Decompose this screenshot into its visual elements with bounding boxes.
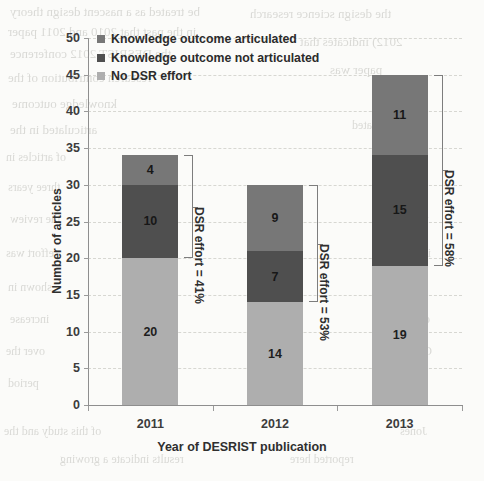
- y-tick-label: 40: [40, 104, 80, 118]
- chart-legend: Knowledge outcome articulatedKnowledge o…: [97, 30, 319, 86]
- bar-segment[interactable]: 10: [122, 185, 178, 258]
- legend-item[interactable]: Knowledge outcome not articulated: [97, 49, 319, 68]
- legend-item[interactable]: No DSR effort: [97, 67, 319, 86]
- bar-segment[interactable]: 14: [247, 302, 303, 405]
- y-axis-line: [88, 38, 89, 406]
- bar-value-label: 9: [272, 211, 279, 225]
- x-tick-mark: [213, 406, 214, 411]
- dsr-effort-annotation: DSR effort = 41%: [184, 155, 254, 258]
- dsr-effort-label: DSR effort = 41%: [192, 207, 206, 304]
- bar-segment[interactable]: 19: [372, 266, 428, 405]
- y-tick-label: 30: [40, 178, 80, 192]
- y-tick-label: 25: [40, 215, 80, 229]
- y-tick-label: 0: [40, 398, 80, 412]
- y-tick-mark: [84, 148, 89, 149]
- bar-segment[interactable]: 4: [122, 155, 178, 184]
- bar-value-label: 14: [268, 347, 282, 361]
- bar-value-label: 10: [143, 214, 157, 228]
- dsr-effort-annotation: DSR effort = 53%: [309, 185, 379, 302]
- y-tick-label: 10: [40, 325, 80, 339]
- legend-label: Knowledge outcome articulated: [111, 32, 297, 46]
- y-tick-mark: [84, 38, 89, 39]
- y-tick-mark: [84, 295, 89, 296]
- dsr-effort-annotation: DSR effort = 58%: [434, 75, 484, 266]
- bar-value-label: 15: [393, 203, 407, 217]
- x-axis-line: [88, 405, 463, 406]
- y-axis-title: Number of articles: [50, 188, 64, 293]
- y-tick-mark: [84, 185, 89, 186]
- y-tick-mark: [84, 75, 89, 76]
- y-tick-label: 35: [40, 141, 80, 155]
- y-tick-label: 15: [40, 288, 80, 302]
- bar-segment[interactable]: 20: [122, 258, 178, 405]
- x-tick-mark: [337, 406, 338, 411]
- plot-area: 201041479191511 DSR effort = 41%DSR effo…: [88, 38, 462, 405]
- dsr-effort-label: DSR effort = 58%: [442, 170, 456, 267]
- x-tick-mark: [462, 406, 463, 411]
- y-tick-mark: [84, 368, 89, 369]
- bar-segment[interactable]: 9: [247, 185, 303, 251]
- legend-swatch-icon: [97, 35, 105, 43]
- y-tick-mark: [84, 222, 89, 223]
- bar-value-label: 19: [393, 328, 407, 342]
- x-tick-label: 2013: [360, 417, 440, 431]
- bar-column-2011[interactable]: 20104: [122, 38, 178, 405]
- y-tick-label: 20: [40, 251, 80, 265]
- y-tick-mark: [84, 332, 89, 333]
- bar-value-label: 4: [147, 163, 154, 177]
- bar-segment[interactable]: 11: [372, 75, 428, 156]
- bar-column-2012[interactable]: 1479: [247, 38, 303, 405]
- y-tick-mark: [84, 258, 89, 259]
- y-tick-label: 5: [40, 361, 80, 375]
- legend-label: Knowledge outcome not articulated: [111, 51, 319, 65]
- x-tick-label: 2012: [235, 417, 315, 431]
- dsr-effort-label: DSR effort = 53%: [317, 244, 331, 341]
- chart-container: Number of articles 201041479191511 DSR e…: [0, 0, 484, 481]
- bar-value-label: 7: [272, 270, 279, 284]
- legend-label: No DSR effort: [111, 69, 192, 83]
- bar-value-label: 11: [393, 108, 406, 122]
- legend-item[interactable]: Knowledge outcome articulated: [97, 30, 319, 49]
- bar-segment[interactable]: 7: [247, 251, 303, 302]
- x-tick-mark: [88, 406, 89, 411]
- bar-value-label: 20: [143, 325, 157, 339]
- bar-segment[interactable]: 15: [372, 155, 428, 265]
- legend-swatch-icon: [97, 72, 105, 80]
- y-tick-mark: [84, 111, 89, 112]
- legend-swatch-icon: [97, 54, 105, 62]
- bar-column-2013[interactable]: 191511: [372, 38, 428, 405]
- y-tick-label: 50: [40, 31, 80, 45]
- x-tick-label: 2011: [110, 417, 190, 431]
- y-tick-label: 45: [40, 68, 80, 82]
- x-axis-title: Year of DESRIST publication: [0, 440, 484, 454]
